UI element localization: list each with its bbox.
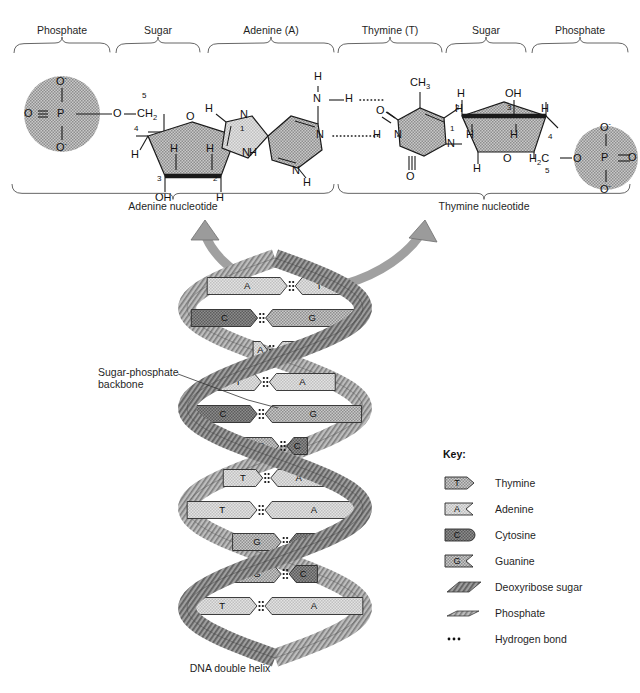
atom-ring-o-right: O <box>503 152 512 164</box>
hydrogen-bond-dot <box>286 573 288 575</box>
hydrogen-bond-dot <box>283 577 285 579</box>
adenine-pyrimidine-ring <box>268 116 322 168</box>
atom-h-c1-top-right: H <box>457 87 465 99</box>
thymine-tab-icon: T <box>443 473 495 493</box>
key-title: Key: <box>443 448 633 460</box>
atom-p-left: P <box>57 107 64 119</box>
hydrogen-bond-dot <box>292 281 294 283</box>
hydrogen-bond-dot <box>269 345 271 347</box>
carbon-number-5-right: 5 <box>545 166 549 175</box>
hydrogen-bond-dot <box>262 609 264 611</box>
atom-h-c3-left: H <box>170 142 178 154</box>
key-item: CCytosine <box>443 522 633 548</box>
base-letter-right: C <box>294 440 301 451</box>
atom-ch3-thymine: CH3 <box>410 76 430 91</box>
svg-text:T: T <box>454 478 460 488</box>
carbon-number-3-right: 3 <box>507 103 511 112</box>
brace-label: Sugar <box>144 24 173 36</box>
brace-path <box>532 37 628 53</box>
atom-h-amine-right: H <box>345 92 353 104</box>
base-letter-left: C <box>221 312 228 323</box>
key-item-label: Thymine <box>495 477 535 489</box>
atom-ring-o-left: O <box>186 110 195 122</box>
hydrogen-bond-dot <box>258 505 260 507</box>
hydrogen-bond-dot <box>259 313 261 315</box>
hydrogen-bond-dot <box>258 609 260 611</box>
atom-o-left-phosphate: O <box>24 107 33 119</box>
base-letter-right: G <box>308 312 315 323</box>
hydrogen-bond-dot <box>280 445 282 447</box>
hydrogen-bond-dot <box>280 441 282 443</box>
key-item-label: Hydrogen bond <box>495 633 567 645</box>
hydrogen-bond-dot <box>286 569 288 571</box>
brace-path <box>338 184 630 199</box>
base-letter-left: T <box>240 472 246 483</box>
atom-h-c1-bottom-right: H <box>473 162 481 174</box>
hydrogen-bond-dot <box>262 509 264 511</box>
hydrogen-bond-dot <box>283 541 285 543</box>
carbon-number-2-right: 2 <box>455 103 459 112</box>
hydrogen-bond-dot <box>268 481 270 483</box>
top-brace-row: PhosphateSugarAdenine (A)Thymine (T)Suga… <box>0 22 640 60</box>
key-item: TThymine <box>443 470 633 496</box>
key-item: AAdenine <box>443 496 633 522</box>
hydrogen-bond-dot <box>259 321 261 323</box>
brace-label: Thymine (T) <box>362 24 419 36</box>
nucleotide-brace-label: Thymine nucleotide <box>438 200 529 212</box>
carbon-number-1-left: 1 <box>240 124 244 133</box>
key-item: Hydrogen bond <box>443 626 633 652</box>
deoxyribose-ring-left <box>148 122 236 176</box>
key-item: Phosphate <box>443 600 633 626</box>
cytosine-tab-icon: C <box>443 525 495 545</box>
hydrogen-bond-dot <box>259 317 261 319</box>
atom-oh-c3-right: OH <box>505 87 522 99</box>
atom-o-bottom-left-phosphate: O- <box>56 140 67 153</box>
atom-n1-thymine: N <box>447 137 455 149</box>
atom-n3-adenine: N <box>292 164 300 176</box>
guanine-tab-icon: G <box>443 551 495 571</box>
hydrogen-bond-dot <box>272 345 274 347</box>
base-letter-left: T <box>219 504 225 515</box>
base-letter-left: G <box>253 536 260 547</box>
atom-o-right-phosphate: O <box>628 151 637 163</box>
svg-text:G: G <box>453 556 460 566</box>
hydrogen-bond-dot <box>258 509 260 511</box>
backbone-label-line2: backbone <box>98 378 179 390</box>
hydrogen-bond-dot <box>283 573 285 575</box>
base-letter-right: A <box>311 600 318 611</box>
hydrogen-bond-dot <box>262 601 264 603</box>
key-item-label: Cytosine <box>495 529 536 541</box>
atom-h-c2-left: H <box>206 142 214 154</box>
hydrogen-bond-dot <box>283 569 285 571</box>
backbone-label-line1: Sugar-phosphate <box>98 366 179 378</box>
atom-h-n3-thymine: H <box>373 128 381 140</box>
brace-path <box>208 37 334 53</box>
hydrogen-bond-dot <box>258 513 260 515</box>
key-item-label: Guanine <box>495 555 535 567</box>
svg-text:C: C <box>454 530 461 540</box>
base-letter-right: A <box>311 504 318 515</box>
base-letter-left: T <box>219 600 225 611</box>
hydrogen-bond-dot <box>292 289 294 291</box>
atom-h-c2-right: H <box>466 128 474 140</box>
hydrogen-bond-dot <box>289 289 291 291</box>
hydrogen-bond-dot <box>268 473 270 475</box>
helix-svg: ATCGATTACGGCTATAGCGCTA <box>120 258 430 658</box>
atom-h-c8-adenine: H <box>205 102 213 114</box>
svg-text:A: A <box>454 504 460 514</box>
dna-double-helix: ATCGATTACGGCTATAGCGCTA <box>120 258 430 658</box>
hydrogen-bond-dot <box>268 477 270 479</box>
nucleotide-chemical-structure: O P O- O- O CH2 5 O 4 1 3 2 H H H OH H H… <box>0 58 640 180</box>
atom-o-top-left-phosphate: O- <box>56 74 67 87</box>
hydrogen-bond-dot <box>283 537 285 539</box>
hydrogen-bond-dot <box>286 541 288 543</box>
hydrogen-bond-dot <box>289 281 291 283</box>
atom-n9-adenine: N <box>242 146 250 158</box>
key-item-label: Phosphate <box>495 607 545 619</box>
atom-n1-adenine: N <box>316 128 324 140</box>
base-pair: CG <box>191 310 358 327</box>
hydrogen-bond-dot <box>286 577 288 579</box>
base-letter-left: A <box>244 280 251 291</box>
hydrogen-bond-dot <box>284 449 286 451</box>
hydrogen-bond-dot <box>292 285 294 287</box>
